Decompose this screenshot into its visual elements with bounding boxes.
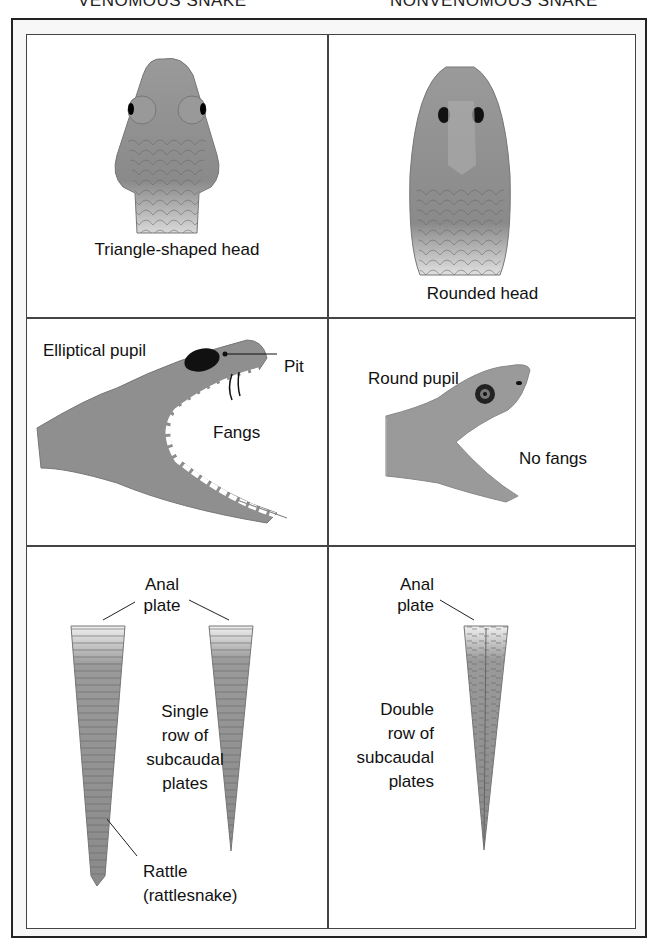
header-nonvenomous: NONVENOMOUS SNAKE (390, 0, 598, 11)
label-pit: Pit (284, 356, 304, 377)
subcaudal-line2: row of (137, 724, 233, 748)
subcaudal-line2: row of (348, 722, 434, 746)
header-venomous: VENOMOUS SNAKE (78, 0, 247, 11)
panel-venomous-profile: Elliptical pupil Pit Fangs (27, 318, 327, 545)
comparison-grid: Triangle-shaped head Rounded head (26, 34, 636, 929)
anal-plate-line2: plate (378, 595, 434, 616)
label-double-row-subcaudal: Double row of subcaudal plates (348, 698, 434, 794)
panel-nonvenomous-head: Rounded head (328, 35, 637, 317)
rounded-head-illustration (328, 35, 637, 317)
label-elliptical-pupil: Elliptical pupil (43, 340, 146, 361)
label-anal-plate-nonvenomous: Anal plate (378, 574, 434, 616)
label-round-pupil: Round pupil (368, 368, 459, 389)
anal-plate-line2: plate (137, 595, 187, 616)
label-fangs: Fangs (213, 422, 260, 443)
anal-plate-line1: Anal (378, 574, 434, 595)
caption-rounded-head: Rounded head (328, 283, 637, 304)
label-no-fangs: No fangs (519, 448, 587, 469)
rattle-line1: Rattle (143, 860, 237, 884)
panel-nonvenomous-profile: Round pupil No fangs (328, 318, 637, 545)
anal-plate-line1: Anal (137, 574, 187, 595)
label-rattle: Rattle (rattlesnake) (143, 860, 237, 908)
subcaudal-line4: plates (137, 772, 233, 796)
subcaudal-line1: Single (137, 700, 233, 724)
subcaudal-line3: subcaudal (348, 746, 434, 770)
panel-venomous-head: Triangle-shaped head (27, 35, 327, 317)
panel-venomous-tail: Anal plate Single row of subcaudal plate… (27, 546, 327, 929)
subcaudal-line4: plates (348, 770, 434, 794)
label-single-row-subcaudal: Single row of subcaudal plates (137, 700, 233, 796)
subcaudal-line1: Double (348, 698, 434, 722)
label-anal-plate-venomous: Anal plate (137, 574, 187, 616)
nonvenomous-open-mouth-illustration (328, 318, 637, 545)
panel-nonvenomous-tail: Anal plate Double row of subcaudal plate… (328, 546, 637, 929)
triangle-head-illustration (27, 35, 327, 317)
subcaudal-line3: subcaudal (137, 748, 233, 772)
rattle-line2: (rattlesnake) (143, 884, 237, 908)
caption-triangle-head: Triangle-shaped head (27, 239, 327, 260)
